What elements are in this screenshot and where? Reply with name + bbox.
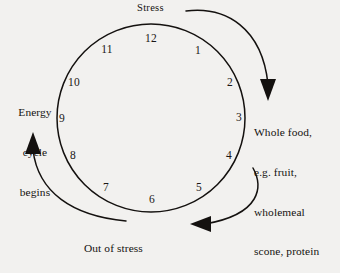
clock-number-3: 3 — [236, 112, 242, 124]
clock-number-2: 2 — [227, 77, 233, 89]
clock-circle — [57, 24, 245, 212]
label-energy-line-2: cycle — [2, 146, 68, 159]
arrow-food-to-out-of-stress-head — [190, 216, 211, 232]
clock-cycle-diagram: 12 1 2 3 4 5 6 7 8 9 10 11 Stress Whole … — [0, 0, 340, 273]
arrow-food-to-out-of-stress-line — [205, 168, 258, 224]
clock-number-10: 10 — [68, 77, 80, 89]
label-whole-food: Whole food, e.g. fruit, wholemeal scone,… — [254, 100, 319, 273]
clock-number-8: 8 — [70, 150, 76, 162]
label-energy-line-3: begins — [2, 186, 68, 199]
label-whole-food-line-3: wholemeal — [254, 206, 319, 219]
label-whole-food-line-1: Whole food, — [254, 126, 319, 139]
clock-number-4: 4 — [226, 150, 232, 162]
arrow-stress-to-food-head — [260, 79, 276, 101]
label-whole-food-line-4: scone, protein — [254, 245, 319, 258]
clock-number-11: 11 — [101, 44, 112, 56]
label-energy-line-1: Energy — [2, 106, 68, 119]
clock-number-6: 6 — [149, 194, 155, 206]
label-energy-cycle-begins: Energy cycle begins — [2, 80, 68, 225]
label-out-of-stress-line-1: Out of stress — [84, 242, 192, 255]
label-whole-food-line-2: e.g. fruit, — [254, 166, 319, 179]
label-stress: Stress — [137, 2, 164, 14]
clock-number-12: 12 — [145, 33, 157, 45]
clock-number-5: 5 — [196, 182, 202, 194]
label-out-of-stress-cycle: Out of stress cycle immediately — [84, 216, 192, 273]
clock-number-7: 7 — [103, 182, 109, 194]
clock-number-1: 1 — [195, 45, 201, 57]
